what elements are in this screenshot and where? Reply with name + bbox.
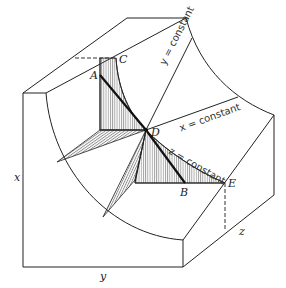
label-axis-y: y (100, 271, 106, 282)
point-D (144, 128, 148, 132)
label-axis-z: z (239, 226, 245, 237)
bottom-right-slant (183, 195, 274, 267)
diagram-canvas (0, 0, 286, 288)
top-right-arc (186, 18, 274, 115)
label-axis-x: x (14, 172, 20, 183)
label-point-E: E (228, 178, 236, 189)
shaded-face-AC-D (100, 58, 146, 130)
label-point-B: B (180, 187, 188, 198)
label-point-A: A (90, 70, 98, 81)
label-point-C: C (119, 54, 127, 65)
label-point-D: D (151, 127, 160, 138)
